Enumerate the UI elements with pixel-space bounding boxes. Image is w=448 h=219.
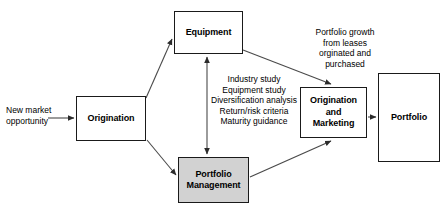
node-origination[interactable]: Origination	[76, 96, 146, 141]
node-portfolio[interactable]: Portfolio	[378, 73, 440, 162]
annotation-portfolio-criteria: Industry study Equipment study Diversifi…	[198, 74, 310, 127]
annotation-new-market-opportunity: New market opportunity	[6, 105, 72, 126]
node-portfolio-management[interactable]: Portfolio Management	[178, 157, 249, 203]
flow-diagram: Equipment Origination Origination and Ma…	[0, 0, 448, 219]
connector-pm-to-om	[250, 141, 331, 177]
annotation-portfolio-growth: Portfolio growth from leases orginated a…	[304, 27, 386, 69]
connector-origination-to-pm	[147, 140, 176, 175]
node-origination-and-marketing[interactable]: Origination and Marketing	[300, 87, 367, 138]
node-equipment[interactable]: Equipment	[174, 11, 243, 54]
connector-origination-to-equipment	[146, 39, 172, 98]
